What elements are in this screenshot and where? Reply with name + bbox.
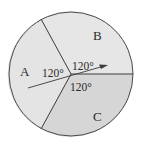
sector-c-label: C [93,109,102,124]
angle-b-label: 120° [72,60,94,72]
angle-a-label: 120° [42,67,64,79]
sector-a-label: A [20,64,30,79]
angle-c-label: 120° [70,81,92,93]
sector-b-label: B [93,28,102,43]
sector-diagram: A B C 120° 120° 120° [0,0,143,147]
